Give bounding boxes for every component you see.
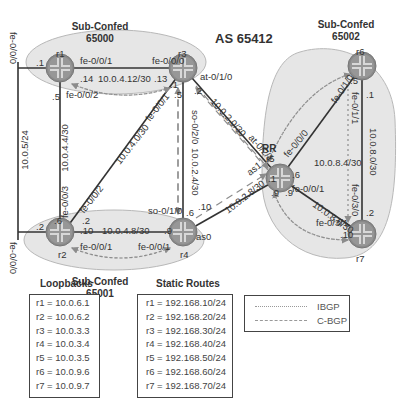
r1-host-shared: .1: [36, 57, 44, 68]
static-route-row: r3 = 192.168.30/24: [146, 324, 232, 338]
r5-as1: as1: [244, 159, 263, 177]
static-route-row: r6 = 192.168.60/24: [146, 365, 232, 379]
legend-label: IBGP: [317, 301, 340, 312]
r6-fe011: fe-0/1/1: [350, 92, 361, 124]
r5-host-1: .1: [268, 173, 276, 184]
legend-label: C-BGP: [317, 315, 347, 326]
r4-host-10: .10: [198, 201, 211, 212]
dotted-line-icon: [255, 306, 307, 307]
r3-host-2: .2: [194, 85, 202, 96]
loopback-row: r5 = 10.0.3.5: [36, 351, 99, 365]
r7-host-2: .2: [366, 207, 374, 218]
subconfed-65000-label: Sub-Confed: [72, 21, 129, 32]
r2-fe003: fe-0/0/3: [59, 186, 70, 218]
r1-label: r1: [56, 48, 64, 59]
subconfed-65000-as: 65000: [86, 33, 114, 44]
r2-host-6: .6: [54, 215, 62, 226]
r3-host-5: .5: [174, 89, 182, 100]
r3-fe000: fe-0/0/0: [152, 55, 184, 66]
loopback-row: r3 = 10.0.3.3: [36, 324, 99, 338]
r4-host-6: .6: [186, 207, 194, 218]
r4-so010: so-0/1/0: [148, 205, 182, 216]
r3-so020: so-0/2/0: [190, 110, 201, 144]
subconfed-65002-label: Sub-Confed: [318, 19, 375, 30]
r2-host-shared: .2: [36, 221, 44, 232]
r7-label: r7: [356, 253, 364, 264]
r2-r3-subnet: 10.0.4.0/30: [113, 122, 151, 166]
r3-r4-subnet: 10.0.2.4/30: [190, 148, 201, 196]
r1-fe001: fe-0/0/1: [80, 55, 112, 66]
r1-fe002: fe-0/0/2: [66, 89, 98, 100]
loopbacks-header: Loopbacks: [40, 278, 93, 289]
legend: IBGP C-BGP: [244, 295, 350, 332]
r3-at010: at-0/1/0: [200, 71, 232, 82]
shared-subnet: 10.0.5/24: [19, 130, 30, 170]
r3-r5-subnet: 10.0.2.0/30: [209, 96, 249, 139]
loopback-row: r1 = 10.0.6.1: [36, 296, 99, 310]
as-title: AS 65412: [215, 31, 273, 46]
r7-host-10: .10: [340, 229, 353, 240]
loopback-row: r6 = 10.0.9.6: [36, 365, 99, 379]
r1-host-14: .14: [80, 73, 93, 84]
r2-host-10: .10: [80, 225, 93, 236]
r6-r7-subnet: 10.0.8.0/30: [368, 128, 379, 176]
loopback-row: r7 = 10.0.9.7: [36, 379, 99, 393]
r5-host-6: .6: [292, 169, 300, 180]
r2-fe001: fe-0/0/1: [80, 241, 112, 252]
r1-r2-subnet: 10.0.4.4/30: [59, 124, 70, 172]
loopback-row: r4 = 10.0.3.4: [36, 337, 99, 351]
r1-fe000: fe-0/0/0: [8, 32, 19, 64]
r5-r6-subnet: 10.0.8.4/30: [314, 157, 362, 168]
legend-item-cbgp: C-BGP: [255, 313, 349, 327]
r2-label: r2: [58, 249, 66, 260]
r1-r3-subnet: 10.0.4.12/30: [98, 73, 151, 84]
r1-host-5: .5: [52, 91, 60, 102]
static-route-row: r7 = 192.168.70/24: [146, 379, 232, 393]
r5-fe001: fe-0/0/1: [292, 183, 324, 194]
r4-fe001: fe-0/0/1: [138, 241, 170, 252]
static-routes-table: r1 = 192.168.10/24 r2 = 192.168.20/24 r3…: [137, 294, 233, 398]
r3-host-13: .13: [154, 73, 167, 84]
r4-as0: as0: [196, 231, 211, 242]
subconfed-65002-as: 65002: [332, 31, 360, 42]
r6-host-5: .5: [350, 75, 358, 86]
loopbacks-table: r1 = 10.0.6.1 r2 = 10.0.6.2 r3 = 10.0.3.…: [29, 294, 100, 398]
static-route-row: r1 = 192.168.10/24: [146, 296, 232, 310]
r2-fe000: fe-0/0/0: [8, 242, 19, 274]
r5-host-9: .9: [271, 187, 279, 198]
static-routes-header: Static Routes: [156, 278, 220, 289]
static-route-row: r4 = 192.168.40/24: [146, 337, 232, 351]
r4-host-9: .9: [164, 225, 172, 236]
r6-host-1: .1: [366, 89, 374, 100]
loopback-row: r2 = 10.0.6.2: [36, 310, 99, 324]
r5-host-9b: .9: [285, 187, 293, 198]
static-route-row: r2 = 192.168.20/24: [146, 310, 232, 324]
router-r4: [169, 218, 197, 246]
legend-item-ibgp: IBGP: [255, 299, 349, 313]
static-route-row: r5 = 192.168.50/24: [146, 351, 232, 365]
r7-fe030: fe-0/3/0: [350, 184, 361, 216]
r6-label: r6: [356, 46, 364, 57]
r3-fe001: fe-0/0/1: [143, 91, 172, 123]
r2-r4-subnet: 10.0.4.8/30: [102, 225, 150, 236]
dashed-line-icon: [255, 320, 307, 321]
r7-fe031: fe-0/3/1: [316, 217, 348, 228]
r4-label: r4: [180, 249, 188, 260]
